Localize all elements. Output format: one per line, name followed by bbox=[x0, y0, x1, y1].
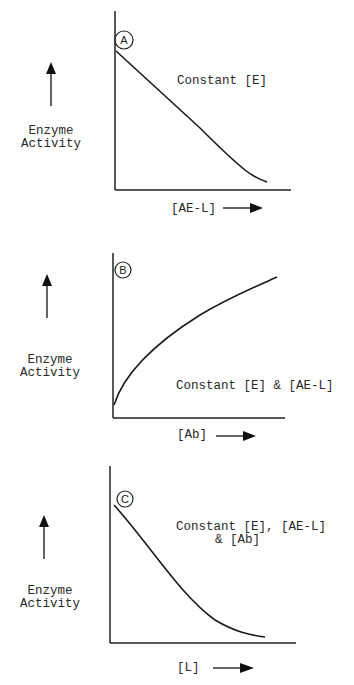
panel-label: C bbox=[121, 493, 129, 505]
condition-label: Constant [E] bbox=[177, 74, 267, 88]
arrowhead-icon bbox=[243, 431, 256, 441]
x-axis-label: [AE-L] bbox=[171, 202, 216, 216]
condition-label-line1: Constant [E], [AE-L] bbox=[176, 520, 326, 534]
y-axis-label-line2: Activity bbox=[20, 597, 81, 611]
arrowhead-icon bbox=[240, 663, 254, 673]
figure: Enzyme Activity A Constant [E] [AE-L] En… bbox=[0, 0, 354, 685]
curve-a bbox=[116, 51, 267, 182]
x-axis-label: [L] bbox=[177, 661, 200, 675]
y-axis-label-line1: Enzyme bbox=[27, 584, 72, 598]
y-axis-label-line1: Enzyme bbox=[27, 353, 72, 367]
y-axis-label-line2: Activity bbox=[21, 137, 82, 151]
arrowhead-icon bbox=[42, 274, 52, 286]
panel-label: B bbox=[119, 264, 126, 276]
y-axis-label-line1: Enzyme bbox=[28, 124, 73, 138]
arrowhead-icon bbox=[46, 62, 56, 74]
arrowhead-icon bbox=[39, 515, 49, 527]
panel-label: A bbox=[120, 34, 128, 46]
panel-c: Enzyme Activity C Constant [E], [AE-L] &… bbox=[20, 466, 326, 675]
arrowhead-icon bbox=[250, 203, 263, 213]
condition-label: Constant [E] & [AE-L] bbox=[176, 379, 334, 393]
condition-label-line2: & [Ab] bbox=[215, 533, 260, 547]
panel-a: Enzyme Activity A Constant [E] [AE-L] bbox=[21, 11, 291, 216]
y-axis-label-line2: Activity bbox=[20, 366, 81, 380]
x-axis-label: [Ab] bbox=[177, 428, 207, 442]
panel-b: Enzyme Activity B Constant [E] & [AE-L] … bbox=[20, 253, 334, 442]
